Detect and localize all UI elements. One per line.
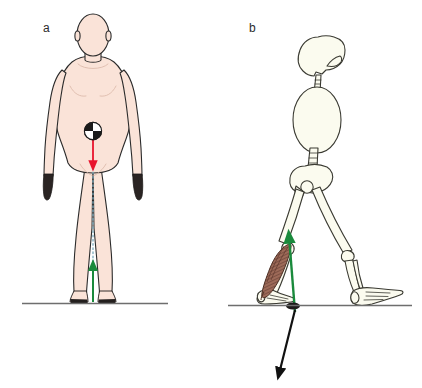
ground-reaction-force-vector-b <box>279 310 295 374</box>
body-right-ear <box>106 31 111 41</box>
skeleton-right-femur <box>312 187 352 254</box>
body-left-leg <box>74 160 93 299</box>
panel-a-illustration <box>22 14 168 304</box>
right-foot-metatarsal-3 <box>364 300 383 301</box>
body-right-foot-shadow <box>99 299 117 303</box>
body-head <box>77 14 109 56</box>
figure-root: a b <box>0 0 422 388</box>
center-of-mass-marker <box>84 122 101 139</box>
body-right-hand <box>133 174 143 200</box>
figure-illustration <box>0 0 422 388</box>
body-left-ear <box>75 31 80 41</box>
body-right-leg <box>93 160 112 299</box>
body-left-hand <box>43 174 53 200</box>
skeleton-ribcage <box>293 87 341 153</box>
panel-b-illustration <box>228 36 412 374</box>
right-foot-metatarsal-2 <box>366 296 388 297</box>
skeleton-left-femur <box>279 189 304 244</box>
skeleton-skull <box>298 36 345 76</box>
right-foot-calcaneus <box>351 292 359 303</box>
body-left-foot-shadow <box>70 299 88 303</box>
